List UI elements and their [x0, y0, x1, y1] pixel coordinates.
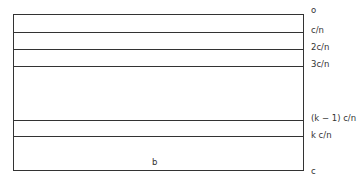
level-label-0: o — [311, 5, 316, 15]
level-label-1: c/n — [311, 25, 324, 35]
level-line-k — [13, 136, 304, 137]
level-label-2: 2c/n — [311, 42, 329, 52]
level-label-c: c — [311, 166, 316, 176]
level-line-1 — [13, 32, 304, 33]
level-label-k: k c/n — [311, 130, 332, 140]
level-label-3: 3c/n — [311, 59, 329, 69]
level-line-3 — [13, 66, 304, 67]
level-label-k-1: (k − 1) c/n — [311, 113, 356, 123]
level-line-2 — [13, 49, 304, 50]
diagram-box — [13, 14, 304, 171]
level-line-k-1 — [13, 120, 304, 121]
width-label-b: b — [152, 157, 157, 167]
